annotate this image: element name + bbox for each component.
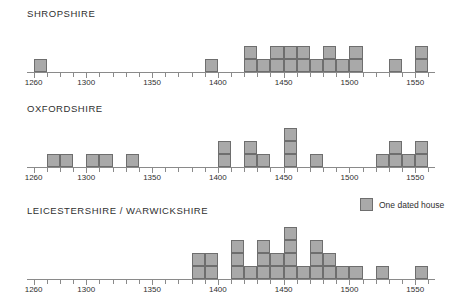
axis-tick-minor <box>192 280 193 284</box>
plot-area: 1260130013501400145015001550 <box>27 115 435 181</box>
bar-unit <box>244 141 257 154</box>
bar-unit <box>297 266 310 279</box>
plot-area: 1260130013501400145015001550 <box>27 20 435 86</box>
bar-unit <box>205 253 218 266</box>
axis-tick-label: 1550 <box>406 285 424 294</box>
axis-tick-minor <box>113 280 114 284</box>
bar-unit <box>284 154 297 167</box>
axis-tick-minor <box>310 280 311 284</box>
bar-unit <box>297 59 310 72</box>
bar-unit <box>257 59 270 72</box>
bar-unit <box>218 141 231 154</box>
legend-label: One dated house <box>379 200 444 210</box>
axis-tick-label: 1350 <box>143 173 161 182</box>
bar-unit <box>415 154 428 167</box>
bar-unit <box>376 266 389 279</box>
axis-tick-label: 1300 <box>77 173 95 182</box>
bar-unit <box>349 59 362 72</box>
axis-tick-label: 1500 <box>341 173 359 182</box>
bar-unit <box>336 59 349 72</box>
bar-unit <box>257 266 270 279</box>
bar-unit <box>376 154 389 167</box>
panel-title: OXFORDSHIRE <box>27 103 103 114</box>
axis-tick-minor <box>205 73 206 77</box>
axis-tick-minor <box>402 280 403 284</box>
axis-tick-minor <box>376 280 377 284</box>
axis-tick-minor <box>165 73 166 77</box>
histogram-figure: SHROPSHIRE 1260130013501400145015001550 … <box>0 0 462 299</box>
axis-tick-minor <box>389 280 390 284</box>
axis-tick-minor <box>310 73 311 77</box>
bar-unit <box>415 46 428 59</box>
axis-tick-minor <box>336 73 337 77</box>
axis-tick-label: 1450 <box>275 78 293 87</box>
axis-tick-minor <box>270 73 271 77</box>
axis-tick-minor <box>73 168 74 172</box>
panel-title: LEICESTERSHIRE / WARWICKSHIRE <box>27 205 208 216</box>
axis-tick-minor <box>178 168 179 172</box>
bar-unit <box>323 59 336 72</box>
axis-tick-minor <box>205 280 206 284</box>
axis-tick-label: 1450 <box>275 285 293 294</box>
bar-unit <box>284 240 297 253</box>
bar-unit <box>257 154 270 167</box>
axis-tick-minor <box>139 73 140 77</box>
axis-tick-label: 1400 <box>209 173 227 182</box>
bar-unit <box>284 128 297 141</box>
axis-tick-minor <box>389 73 390 77</box>
axis-tick-minor <box>73 280 74 284</box>
axis-tick-minor <box>336 168 337 172</box>
axis-tick-label: 1350 <box>143 78 161 87</box>
axis-tick-minor <box>376 168 377 172</box>
bar-unit <box>297 46 310 59</box>
axis-tick-minor <box>428 168 429 172</box>
axis-tick-minor <box>257 280 258 284</box>
axis-tick-label: 1550 <box>406 78 424 87</box>
bar-unit <box>284 59 297 72</box>
axis-tick-minor <box>428 73 429 77</box>
bar-unit <box>389 154 402 167</box>
axis-tick-minor <box>99 280 100 284</box>
axis-tick-label: 1500 <box>341 285 359 294</box>
axis-tick-minor <box>323 73 324 77</box>
axis-tick-minor <box>139 168 140 172</box>
bar-unit <box>231 240 244 253</box>
axis-tick-minor <box>323 168 324 172</box>
axis-tick-minor <box>178 73 179 77</box>
panel-leicestershire-warwickshire: LEICESTERSHIRE / WARWICKSHIRE 1260130013… <box>0 205 462 293</box>
axis-tick-minor <box>113 73 114 77</box>
axis-tick-minor <box>192 168 193 172</box>
axis-tick-minor <box>402 73 403 77</box>
bar-unit <box>257 253 270 266</box>
axis-tick-minor <box>231 280 232 284</box>
axis-tick-minor <box>336 280 337 284</box>
axis-tick-minor <box>178 280 179 284</box>
bar-unit <box>244 59 257 72</box>
axis-tick-minor <box>99 73 100 77</box>
bar-unit <box>310 240 323 253</box>
bar-unit <box>389 59 402 72</box>
bar-unit <box>349 266 362 279</box>
axis-tick-minor <box>126 280 127 284</box>
bar-unit <box>192 253 205 266</box>
axis-tick-minor <box>428 280 429 284</box>
axis-tick-label: 1450 <box>275 173 293 182</box>
axis-tick-label: 1400 <box>209 78 227 87</box>
bar-unit <box>284 253 297 266</box>
axis-tick-minor <box>139 280 140 284</box>
bar-unit <box>349 46 362 59</box>
plot-area: 1260130013501400145015001550 <box>27 217 435 293</box>
axis-tick-minor <box>192 73 193 77</box>
axis-tick-minor <box>376 73 377 77</box>
bar-unit <box>415 266 428 279</box>
bar-unit <box>310 154 323 167</box>
panel-title: SHROPSHIRE <box>27 8 95 19</box>
bar-unit <box>284 227 297 240</box>
axis-tick-minor <box>60 73 61 77</box>
axis-tick-minor <box>231 73 232 77</box>
bar-unit <box>270 46 283 59</box>
bar-unit <box>270 266 283 279</box>
legend-swatch-icon <box>360 198 373 211</box>
axis-tick-minor <box>47 280 48 284</box>
axis-tick-minor <box>165 280 166 284</box>
